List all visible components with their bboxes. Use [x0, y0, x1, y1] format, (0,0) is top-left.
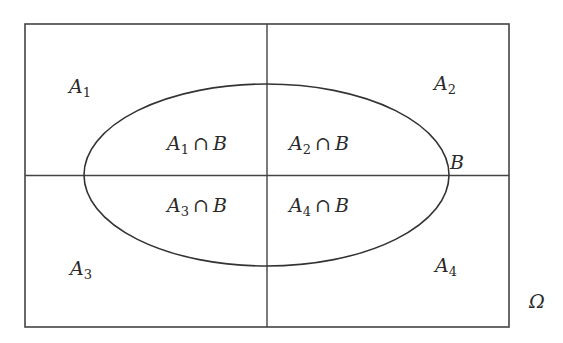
label-omega: Ω: [528, 290, 545, 312]
label-a1-intersect-b: A1∩B: [165, 132, 227, 157]
label-a3-intersect-b: A3∩B: [165, 194, 227, 219]
label-a4-intersect-b: A4∩B: [287, 194, 349, 219]
label-a4: A4: [433, 254, 457, 279]
partition-diagram: A1 A2 A3 A4 A1∩B A2∩B A3∩B A4∩B B Ω: [0, 0, 563, 343]
label-a3: A3: [68, 257, 92, 282]
label-set-b: B: [449, 151, 464, 173]
label-a2-intersect-b: A2∩B: [287, 132, 349, 157]
label-a2: A2: [432, 72, 456, 97]
label-a1: A1: [67, 75, 91, 100]
